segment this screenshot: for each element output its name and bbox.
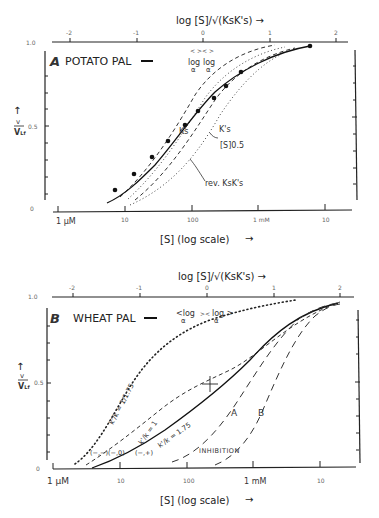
ks-label: Ks	[179, 127, 188, 136]
x-tick: 10	[121, 216, 129, 223]
panel-b-label: B	[50, 311, 60, 326]
top-tick: 2	[338, 284, 342, 291]
log-alpha-left-sub: α	[191, 66, 196, 74]
panel-a-label: A	[49, 54, 60, 69]
panel-b-bottom-axis	[53, 467, 356, 469]
log-alpha-left-sub: α	[181, 317, 186, 325]
figure: log [S]/√(KsK's) → -2 -1 0 1 2 1.0 0.5 0…	[0, 0, 379, 518]
curve-k-ratio-1	[86, 302, 340, 465]
x-tick: 1 mM	[253, 216, 270, 223]
top-tick: -2	[69, 284, 75, 291]
label-k-ratio-1: k'/k = 1	[137, 419, 159, 446]
y-arrow: ↑	[16, 361, 24, 372]
inhibition-label: INHIBITION	[199, 447, 240, 455]
label-k-ratio-1-over-1.75: k'/k = 1/1.75	[108, 382, 136, 426]
x-tick: 10	[117, 477, 125, 484]
curve-inhibition-b	[215, 304, 340, 465]
panel-a-bottom-axis	[53, 210, 352, 212]
y-tick-0: 0	[36, 465, 40, 472]
x-tick: 1 mM	[244, 477, 266, 486]
x-tick: 100	[183, 477, 195, 484]
y-label-vlf: VLf	[14, 128, 26, 137]
x-tick: 10	[322, 216, 330, 223]
y-tick-05: 0.5	[34, 379, 44, 386]
ks-prime-label: K's	[219, 125, 231, 134]
x-arrow: →	[245, 233, 253, 244]
log-alpha-bracket: < >< >	[190, 47, 214, 54]
panel-a-x-label: [S] (log scale)	[160, 234, 229, 245]
x-arrow: →	[245, 494, 253, 505]
midpoint-cross-marker	[202, 376, 218, 392]
top-tick: 1	[268, 29, 272, 36]
panel-a: log [S]/√(KsK's) → -2 -1 0 1 2 1.0 0.5 0…	[13, 15, 357, 245]
top-tick: -1	[133, 29, 139, 36]
panel-a-top-ticks: -2 -1 0 1 2	[66, 29, 338, 42]
curve-ks	[120, 45, 275, 197]
top-tick: 2	[334, 29, 338, 36]
y-label-vlf: VLf	[18, 382, 30, 391]
x-tick: 100	[187, 216, 199, 223]
y-tick-05: 0.5	[28, 123, 38, 130]
sign-label-minus-plus: (−,+)	[135, 449, 153, 457]
panel-a-top-axis-label: log [S]/√(KsK's) →	[176, 15, 264, 26]
s05-label: [S]0.5	[220, 141, 244, 150]
top-tick: -1	[136, 284, 142, 291]
top-tick: 0	[201, 29, 205, 36]
log-alpha-mid: ><	[200, 310, 210, 317]
y-label-v: v	[16, 118, 20, 126]
sign-label-minus-zero: (−,0)	[108, 449, 125, 457]
panel-a-right-axis	[355, 50, 357, 200]
top-tick: 1	[272, 284, 276, 291]
top-tick: 0	[205, 284, 209, 291]
log-alpha-right-sub: α	[206, 66, 211, 74]
x-tick: 1 µM	[56, 217, 76, 226]
x-tick: 1 µM	[47, 476, 69, 486]
x-tick: 10	[317, 477, 325, 484]
panel-b-right-axis	[358, 310, 360, 463]
curve-b-label: B	[258, 408, 264, 418]
curve-a-label: A	[231, 408, 238, 418]
panel-b: log [S]/√(KsK's) → -2 -1 0 1 2 1.0 0.5 0…	[16, 271, 360, 506]
panel-b-top-ticks: -2 -1 0 1 2	[69, 284, 342, 297]
panel-a-title: POTATO PAL	[65, 55, 132, 68]
panel-b-title: WHEAT PAL	[73, 312, 136, 325]
rev-label: rev. KsK's	[205, 179, 243, 188]
s05-pointer	[210, 133, 218, 138]
panel-b-x-label: [S] (log scale)	[160, 495, 229, 506]
curve-inhibition-a	[172, 303, 338, 462]
panel-b-top-axis-label: log [S]/√(KsK's) →	[178, 271, 266, 282]
top-tick: -2	[66, 29, 72, 36]
y-label-v: v	[20, 372, 24, 380]
sign-label-minus-minus: (−,−)	[90, 449, 108, 457]
rev-pointer	[190, 159, 205, 181]
y-arrow: ↑	[13, 105, 21, 116]
y-tick-0: 0	[30, 205, 34, 212]
y-tick-1: 1.0	[28, 293, 38, 300]
label-k-ratio-1.75: k'/k = 1.75	[157, 421, 193, 450]
y-tick-1: 1.0	[26, 39, 36, 46]
